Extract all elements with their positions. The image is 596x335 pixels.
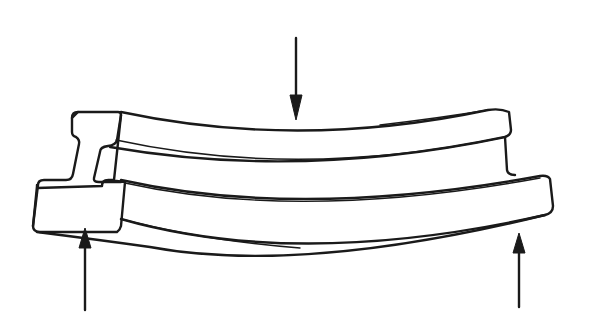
applied-load-arrow bbox=[290, 38, 302, 120]
right-support-arrow bbox=[513, 233, 525, 307]
beam-end-face bbox=[33, 112, 125, 232]
beam-web bbox=[505, 137, 515, 175]
left-support-arrow bbox=[79, 228, 91, 310]
beam-top-flange bbox=[110, 109, 511, 161]
bending-beam-diagram bbox=[0, 0, 596, 335]
beam-bottom-flange bbox=[37, 176, 553, 256]
